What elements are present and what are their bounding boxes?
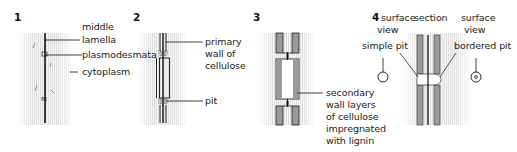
label-surface-view-left-line1: surface — [381, 12, 415, 24]
panel-1-primary-wall-formation — [17, 33, 82, 125]
panel-3-number: 3 — [253, 11, 260, 23]
label-pit: pit — [205, 95, 217, 107]
label-bordered-pit: bordered pit — [454, 40, 511, 52]
pit-cavity — [417, 74, 441, 85]
panel-2-number: 2 — [133, 11, 140, 23]
label-surface-view-left-line2: view — [377, 24, 398, 36]
label-simple-pit: simple pit — [362, 40, 408, 52]
panel-3-secondary-wall — [258, 33, 323, 125]
label-secondary-line5: with lignin — [326, 135, 374, 147]
label-primary-wall-line3: cellulose — [205, 60, 246, 72]
label-plasmodesmata: plasmodesmata — [82, 49, 157, 61]
label-secondary-line4: impregnated — [326, 123, 386, 135]
label-surface-view-right-line1: surface — [461, 12, 495, 24]
label-secondary-line3: of cellulose — [326, 111, 379, 123]
label-cytoplasm: cytoplasm — [82, 66, 130, 78]
label-surface-view-right-line2: view — [464, 24, 485, 36]
simple-pit-surface-icon — [378, 72, 388, 82]
panel-4-number: 4 — [372, 11, 379, 23]
panel-1-number: 1 — [14, 11, 21, 23]
label-secondary-line2: wall layers — [326, 99, 376, 111]
cell-wall-development-diagram: 1 2 3 4 middle lamella plasmodesmata cyt… — [0, 0, 517, 152]
label-primary-wall-line2: wall of — [205, 48, 235, 60]
label-middle-lamella-line2: lamella — [82, 34, 116, 46]
label-primary-wall-line1: primary — [205, 36, 241, 48]
label-secondary-line1: secondary — [326, 87, 374, 99]
label-section: section — [414, 12, 448, 24]
label-middle-lamella-line1: middle — [82, 21, 114, 33]
panel-2-primary-wall — [138, 33, 203, 125]
